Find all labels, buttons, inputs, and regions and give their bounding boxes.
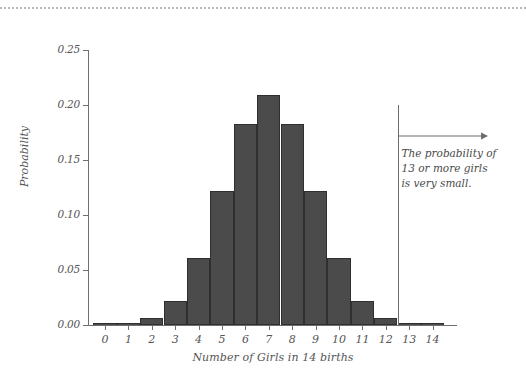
y-tick-label-wrap: 0.15: [42, 153, 80, 167]
x-tick-7: [269, 325, 270, 330]
x-tick-5: [222, 325, 223, 330]
y-tick-label-wrap: 0.25: [42, 43, 80, 57]
histogram-plot: 0.000.050.100.150.200.25 012345678910111…: [0, 0, 526, 377]
bar-1: [117, 323, 140, 325]
x-tick-label: 2: [139, 333, 165, 346]
y-axis-title: Probability: [18, 117, 31, 197]
annotation-text: The probability of 13 or more girls is v…: [402, 146, 514, 191]
x-tick-13: [409, 325, 410, 330]
y-tick-0.20: [83, 105, 89, 106]
bar-6: [234, 124, 257, 325]
x-tick-label: 4: [186, 333, 212, 346]
y-tick-label: 0.05: [46, 263, 80, 275]
y-tick-0.15: [83, 160, 89, 161]
x-tick-label: 3: [162, 333, 188, 346]
x-tick-label: 0: [92, 333, 118, 346]
y-tick-label: 0.20: [46, 98, 80, 110]
bar-3: [164, 301, 187, 325]
y-tick-0.25: [83, 50, 89, 51]
x-axis-title: Number of Girls in 14 births: [88, 351, 458, 364]
bar-11: [351, 301, 374, 325]
y-axis-line: [88, 50, 89, 326]
x-tick-label: 1: [115, 333, 141, 346]
y-tick-label-wrap: 0.05: [42, 263, 80, 277]
bar-12: [374, 318, 397, 325]
x-tick-label: 11: [349, 333, 375, 346]
x-tick-10: [339, 325, 340, 330]
y-tick-label-wrap: 0.20: [42, 98, 80, 112]
x-tick-6: [245, 325, 246, 330]
x-tick-label: 6: [232, 333, 258, 346]
x-tick-label: 10: [326, 333, 352, 346]
x-tick-label: 14: [420, 333, 446, 346]
annotation-line-1: The probability of: [402, 146, 514, 161]
y-tick-label: 0.25: [46, 43, 80, 55]
annotation-line-3: is very small.: [402, 176, 514, 191]
bar-2: [140, 318, 163, 325]
bar-4: [187, 258, 210, 325]
x-tick-2: [152, 325, 153, 330]
figure: 0.000.050.100.150.200.25 012345678910111…: [0, 0, 526, 377]
x-tick-label: 5: [209, 333, 235, 346]
bar-13: [398, 323, 421, 325]
bar-10: [327, 258, 350, 325]
y-tick-label: 0.15: [46, 153, 80, 165]
bar-7: [257, 95, 280, 325]
y-tick-label: 0.10: [46, 208, 80, 220]
bar-5: [210, 191, 233, 325]
bar-8: [281, 124, 304, 325]
x-tick-0: [105, 325, 106, 330]
x-tick-14: [433, 325, 434, 330]
bar-9: [304, 191, 327, 325]
annotation-line-2: 13 or more girls: [402, 161, 514, 176]
y-tick-label-wrap: 0.00: [42, 318, 80, 332]
y-tick-0.10: [83, 215, 89, 216]
bar-14: [421, 323, 444, 325]
x-tick-label: 7: [256, 333, 282, 346]
x-tick-1: [128, 325, 129, 330]
x-axis-line: [88, 325, 457, 326]
x-tick-12: [386, 325, 387, 330]
x-tick-label: 13: [396, 333, 422, 346]
y-tick-0.00: [83, 325, 89, 326]
x-tick-9: [316, 325, 317, 330]
bar-0: [93, 323, 116, 325]
x-tick-11: [362, 325, 363, 330]
y-tick-label-wrap: 0.10: [42, 208, 80, 222]
x-tick-4: [199, 325, 200, 330]
y-tick-0.05: [83, 270, 89, 271]
x-tick-label: 9: [303, 333, 329, 346]
x-tick-8: [292, 325, 293, 330]
x-tick-label: 12: [373, 333, 399, 346]
x-tick-label: 8: [279, 333, 305, 346]
annotation-arrow-icon: [398, 130, 488, 142]
x-tick-3: [175, 325, 176, 330]
y-tick-label: 0.00: [46, 318, 80, 330]
